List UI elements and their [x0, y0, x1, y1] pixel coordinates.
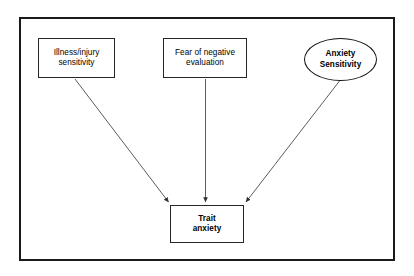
node-label-illness-injury-sensitivity: Illness/injury sensitivity: [54, 48, 100, 69]
node-label-fear-of-negative-evaluation: Fear of negative evaluation: [175, 48, 235, 69]
node-fear-of-negative-evaluation: Fear of negative evaluation: [163, 38, 247, 78]
node-trait-anxiety: Trait anxiety: [170, 205, 244, 243]
node-illness-injury-sensitivity: Illness/injury sensitivity: [38, 38, 115, 78]
diagram-root: Illness/injury sensitivity Fear of negat…: [0, 0, 414, 276]
node-label-trait-anxiety: Trait anxiety: [193, 214, 222, 235]
node-label-anxiety-sensitivity: Anxiety Sensitivity: [320, 49, 362, 70]
node-anxiety-sensitivity: Anxiety Sensitivity: [304, 38, 377, 81]
